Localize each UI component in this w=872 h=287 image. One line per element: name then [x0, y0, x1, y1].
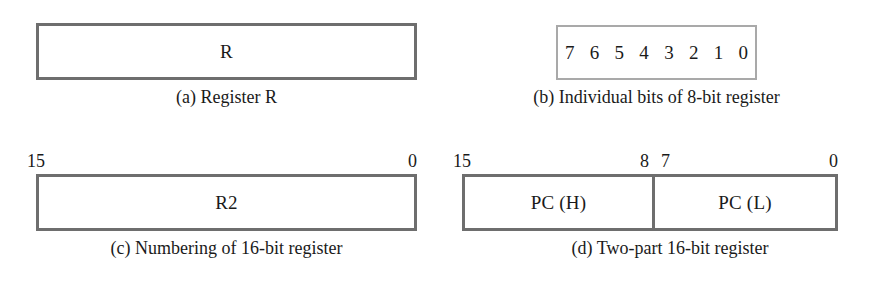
register-box-r2-label: R2: [215, 193, 238, 212]
caption-c: (c) Numbering of 16-bit register: [56, 239, 397, 257]
register-box-r: R: [36, 23, 417, 80]
register-half-pc-low: PC (L): [655, 177, 835, 228]
bit-number-0-right: 0: [820, 152, 838, 170]
register-half-pc-high-label: PC (H): [531, 193, 587, 212]
bit-number-0-right: 0: [399, 152, 417, 170]
bit-digit: 3: [664, 43, 674, 62]
bit-number-15-left: 15: [453, 152, 471, 170]
bit-digit: 7: [565, 43, 575, 62]
caption-b: (b) Individual bits of 8-bit register: [496, 88, 817, 106]
bit-number-8: 8: [631, 152, 649, 170]
bit-digit: 6: [590, 43, 600, 62]
register-half-pc-low-label: PC (L): [718, 193, 771, 212]
bit-digit: 5: [615, 43, 625, 62]
register-box-r2: R2: [36, 174, 417, 231]
register-box-r-label: R: [220, 42, 233, 61]
bit-digit: 2: [689, 43, 699, 62]
bit-digit-row: 7 6 5 4 3 2 1 0: [558, 27, 755, 78]
bit-number-15-left: 15: [27, 152, 45, 170]
register-box-pc: PC (H) PC (L): [462, 174, 838, 231]
bit-digit: 4: [639, 43, 649, 62]
bit-number-7: 7: [661, 152, 670, 170]
register-box-bits: 7 6 5 4 3 2 1 0: [556, 25, 757, 80]
register-half-pc-high: PC (H): [465, 177, 655, 228]
caption-d: (d) Two-part 16-bit register: [520, 239, 820, 257]
bit-digit: 0: [738, 43, 748, 62]
caption-a: (a) Register R: [36, 88, 417, 106]
bit-digit: 1: [714, 43, 724, 62]
